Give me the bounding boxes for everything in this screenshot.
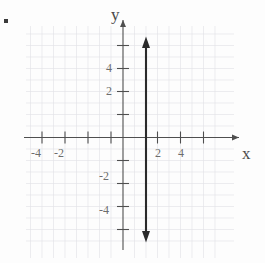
x-tick-label-neg4: -4 <box>31 147 41 159</box>
x-tick-label-pos4: 4 <box>178 147 184 159</box>
grid-lines <box>26 26 234 258</box>
coordinate-plane <box>0 0 265 263</box>
y-tick-label-neg2: -2 <box>99 170 109 182</box>
graph-figure: -4 -2 2 4 4 2 -2 -4 y x <box>0 0 265 263</box>
y-tick-label-pos2: 2 <box>106 85 112 97</box>
y-axis-label: y <box>111 6 120 23</box>
y-tick-label-pos4: 4 <box>106 62 112 74</box>
y-tick-label-neg4: -4 <box>99 204 109 216</box>
x-tick-label-pos2: 2 <box>155 147 161 159</box>
x-tick-label-neg2: -2 <box>54 147 64 159</box>
x-axis-label: x <box>242 145 251 162</box>
plotted-line-x-equals-2 <box>142 37 150 243</box>
y-axis <box>117 20 129 250</box>
x-axis <box>24 132 239 144</box>
